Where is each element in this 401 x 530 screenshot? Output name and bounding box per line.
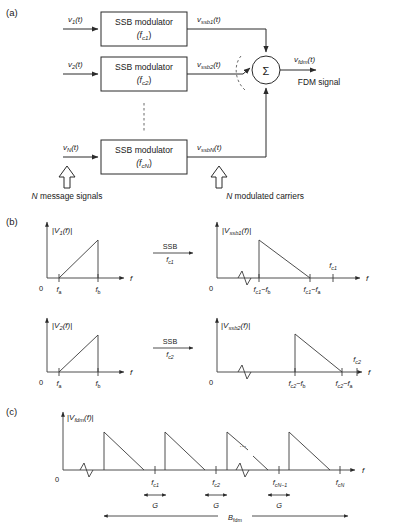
spectrum-vssb1-tick-label-low: fc1−fb xyxy=(253,285,270,295)
spectrum-vssb2: f |Vssb2(f)| 0 fc2−fb fc2−fa fc2 xyxy=(209,318,371,389)
ssb-transform-arrow-2-top: SSB xyxy=(163,337,178,346)
ssb-transform-arrow-1-bottom: fc1 xyxy=(166,255,174,265)
output-label-2: vssb2(t) xyxy=(197,60,221,70)
modulated-carriers-annotation: N modulated carriers xyxy=(226,191,304,201)
spectrum-v2-tick-label-fa: fa xyxy=(56,379,61,389)
fdm-band-3-tail xyxy=(253,456,268,470)
guard-band-3-label: G xyxy=(276,501,282,510)
spectrum-v1-ylabel: |V1(f)| xyxy=(52,226,72,236)
fdm-output-label: vfdm(t) xyxy=(294,55,315,65)
fdm-spectrum-origin: 0 xyxy=(55,475,59,484)
sigma-symbol: Σ xyxy=(263,65,270,77)
fdm-band-2 xyxy=(165,432,205,470)
fdm-tick-label-fcn: fcN xyxy=(336,478,345,488)
ssb-modulator-block-2-title: SSB modulator xyxy=(115,62,173,72)
panel-a-label: (a) xyxy=(6,7,18,18)
spectrum-vssb1-carrier-label: fc1 xyxy=(329,261,337,271)
guard-band-2-label: G xyxy=(213,501,219,510)
input-label-n: vN(t) xyxy=(63,143,79,153)
spectrum-vssb1-origin: 0 xyxy=(209,284,213,293)
ssb-transform-arrow-2-bottom: fc2 xyxy=(166,350,174,360)
spectrum-vssb1-shape xyxy=(259,240,310,278)
spectrum-v2-tick-label-fb: fb xyxy=(95,379,100,389)
panel-b: (b) f |V1(f)| 0 fa fb SSB fc1 f |Vssb1(f… xyxy=(6,216,371,389)
spectrum-vssb2-origin: 0 xyxy=(209,378,213,387)
spectrum-vssb1-ylabel: |Vssb1(f)| xyxy=(222,226,251,236)
spectrum-v1: f |V1(f)| 0 fa fb xyxy=(39,222,133,295)
fdm-band-n xyxy=(289,432,330,470)
ssb-modulator-block-1-title: SSB modulator xyxy=(115,17,173,27)
fdm-tick-label-fc1: fc1 xyxy=(151,478,159,488)
spectrum-vssb1-tick-label-high: fc1−fa xyxy=(303,285,320,295)
guard-band-3: G xyxy=(268,495,290,510)
fdm-spectrum-ylabel: |Vfdm(f)| xyxy=(67,413,94,423)
ssb-modulator-block-n-title: SSB modulator xyxy=(115,145,173,155)
panel-a: (a) SSB modulator (fc1) SSB modulator (f… xyxy=(6,7,340,201)
bandwidth-label: Bfdm xyxy=(228,513,242,523)
ssb-transform-arrow-1: SSB fc1 xyxy=(153,242,193,265)
output-label-1: vssb1(t) xyxy=(197,15,221,25)
spectrum-v1-origin: 0 xyxy=(39,284,43,293)
fdm-signal-caption: FDM signal xyxy=(298,77,340,87)
guard-band-1: G xyxy=(144,495,166,510)
fdm-figure: (a) SSB modulator (fc1) SSB modulator (f… xyxy=(0,0,401,530)
ssb-transform-arrow-1-top: SSB xyxy=(163,242,178,251)
spectrum-v1-tick-label-fa: fa xyxy=(56,285,61,295)
spectrum-vssb2-ylabel: |Vssb2(f)| xyxy=(221,321,250,331)
spectrum-v2: f |V2(f)| 0 fa fb xyxy=(39,318,133,389)
fdm-bands-ellipsis: … xyxy=(239,440,246,449)
panel-b-label: (b) xyxy=(6,216,18,227)
spectrum-vssb2-tick-label-low: fc2−fb xyxy=(288,379,305,389)
modulated-carriers-arrow-icon xyxy=(211,166,227,188)
output-path-1 xyxy=(187,29,266,52)
guard-band-2: G xyxy=(205,495,227,510)
spectrum-vssb2-tick-label-high: fc2−fa xyxy=(335,379,352,389)
ssb-transform-arrow-2: SSB fc2 xyxy=(153,337,193,360)
spectrum-vssb2-shape xyxy=(295,334,342,372)
guard-band-1-label: G xyxy=(152,501,158,510)
panel-c-label: (c) xyxy=(6,406,17,417)
spectrum-vssb2-xlabel: f xyxy=(368,368,371,377)
spectrum-vssb1: f |Vssb1(f)| 0 fc1−fb fc1−fa fc1 xyxy=(209,222,369,295)
message-signals-annotation: N message signals xyxy=(32,191,103,201)
spectrum-vssb2-carrier-label: fc2 xyxy=(353,355,361,365)
total-bandwidth-indicator: Bfdm xyxy=(104,513,348,523)
panel-c: (c) f |Vfdm(f)| 0 … fc1 fc2 fcN−1 fcN xyxy=(6,406,365,523)
spectrum-v2-origin: 0 xyxy=(39,378,43,387)
fdm-tick-label-fcn-1: fcN−1 xyxy=(273,478,288,488)
spectrum-v2-xlabel: f xyxy=(130,368,133,377)
fdm-band-1 xyxy=(104,432,144,470)
spectrum-v1-tick-label-fb: fb xyxy=(95,285,100,295)
spectrum-v1-shape xyxy=(59,240,98,278)
input-label-1: v1(t) xyxy=(68,15,83,25)
output-label-n: vssbN(t) xyxy=(197,143,222,153)
spectrum-vssb1-xlabel: f xyxy=(366,274,369,283)
fdm-tick-label-fc2: fc2 xyxy=(212,478,220,488)
spectrum-v2-shape xyxy=(59,335,98,372)
spectrum-v1-xlabel: f xyxy=(130,274,133,283)
message-signals-arrow-icon xyxy=(59,166,75,188)
spectrum-v2-ylabel: |V2(f)| xyxy=(52,321,72,331)
input-label-2: v2(t) xyxy=(68,60,83,70)
fdm-band-3 xyxy=(227,432,248,470)
fdm-spectrum-xlabel: f xyxy=(362,466,365,475)
